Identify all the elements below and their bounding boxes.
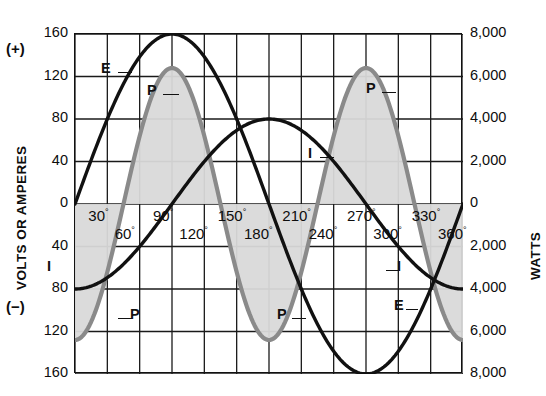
y-tick-right: 4,000 [470, 280, 540, 295]
degree-symbol: ° [372, 207, 376, 217]
curve-label-i-5: I [308, 145, 312, 161]
curve-label-p-3: P [130, 306, 140, 322]
x-tick-value: 210 [282, 207, 307, 224]
x-tick-150: 150° [218, 207, 247, 224]
curve-label-i-6: I [47, 258, 51, 274]
x-tick-value: 30 [88, 207, 105, 224]
x-tick-value: 60 [115, 225, 132, 242]
degree-symbol: ° [398, 225, 402, 235]
y-tick-left: 160 [24, 25, 68, 40]
positive-sign-label: (+) [6, 40, 25, 57]
x-tick-270: 270° [347, 207, 376, 224]
y-tick-left: 120 [24, 68, 68, 83]
y-tick-right: 4,000 [470, 110, 540, 125]
curve-label-p-1: P [147, 82, 157, 98]
plot-area [74, 33, 462, 373]
degree-symbol: ° [463, 225, 467, 235]
x-tick-value: 180 [244, 225, 269, 242]
y-tick-left: 0 [24, 195, 68, 210]
y-tick-right: 6,000 [470, 68, 540, 83]
x-tick-300: 300° [373, 225, 402, 242]
x-tick-360: 360° [438, 225, 467, 242]
chart-figure: VOLTS OR AMPERES WATTS (+) (−) 160120804… [0, 0, 546, 396]
curve-label-p-2: P [366, 80, 376, 96]
degree-symbol: ° [170, 207, 174, 217]
curve-label-e-0: E [101, 60, 111, 76]
x-tick-330: 330° [412, 207, 441, 224]
y-tick-left: 40 [24, 153, 68, 168]
waveform-curves [75, 34, 463, 374]
curve-label-e-8: E [394, 297, 404, 313]
x-tick-210: 210° [282, 207, 311, 224]
y-tick-right: 8,000 [470, 365, 540, 380]
x-tick-30: 30° [88, 207, 108, 224]
leader-line [406, 309, 418, 310]
degree-symbol: ° [243, 207, 247, 217]
leader-line [163, 94, 179, 95]
x-tick-value: 120 [179, 225, 204, 242]
x-tick-value: 300 [373, 225, 398, 242]
degree-symbol: ° [334, 225, 338, 235]
leader-line [118, 72, 132, 73]
negative-sign-label: (−) [6, 298, 25, 315]
x-tick-180: 180° [244, 225, 273, 242]
x-tick-value: 270 [347, 207, 372, 224]
y-tick-left: 80 [24, 280, 68, 295]
x-tick-60: 60° [115, 225, 135, 242]
x-tick-value: 240 [309, 225, 334, 242]
leader-line [320, 157, 334, 158]
x-tick-value: 150 [218, 207, 243, 224]
x-tick-90: 90° [153, 207, 173, 224]
leader-line [386, 270, 398, 271]
curve-label-i-7: I [397, 258, 401, 274]
x-tick-value: 330 [412, 207, 437, 224]
y-tick-right: 0 [470, 195, 540, 210]
y-tick-left: 40 [24, 238, 68, 253]
x-tick-240: 240° [309, 225, 338, 242]
y-tick-right: 2,000 [470, 238, 540, 253]
degree-symbol: ° [105, 207, 109, 217]
x-tick-120: 120° [179, 225, 208, 242]
degree-symbol: ° [269, 225, 273, 235]
degree-symbol: ° [131, 225, 135, 235]
y-tick-right: 8,000 [470, 25, 540, 40]
y-tick-right: 2,000 [470, 153, 540, 168]
curve-label-p-4: P [277, 306, 287, 322]
leader-line [292, 318, 306, 319]
x-tick-value: 360 [438, 225, 463, 242]
left-axis-title: VOLTS OR AMPERES [14, 146, 29, 290]
y-tick-left: 80 [24, 110, 68, 125]
degree-symbol: ° [307, 207, 311, 217]
leader-line [382, 92, 396, 93]
x-tick-value: 90 [153, 207, 170, 224]
degree-symbol: ° [204, 225, 208, 235]
degree-symbol: ° [437, 207, 441, 217]
y-tick-right: 6,000 [470, 323, 540, 338]
leader-line [118, 318, 132, 319]
y-tick-left: 120 [24, 323, 68, 338]
y-tick-left: 160 [24, 365, 68, 380]
